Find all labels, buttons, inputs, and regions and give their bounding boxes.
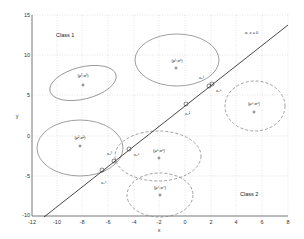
svg-text:-4: -4: [132, 219, 137, 225]
svg-text:-10: -10: [22, 212, 30, 218]
svg-text:(μ⁸,σ⁸): (μ⁸,σ⁸): [248, 101, 261, 106]
svg-text:2: 2: [209, 219, 212, 225]
y-axis-label: y: [16, 113, 19, 119]
chart: -12 -10 -8 -6 -4 -2 0 2 4 6 8 15 10 5 0 …: [0, 0, 304, 239]
svg-text:8: 8: [286, 219, 289, 225]
svg-text:-2: -2: [157, 219, 162, 225]
x-axis-label: x: [158, 227, 161, 233]
svg-text:x₀¹: x₀¹: [199, 75, 205, 80]
x-tick-labels: -12 -10 -8 -6 -4 -2 0 2 4 6 8: [28, 219, 290, 225]
class2-label: Class 2: [240, 191, 258, 197]
svg-text:5: 5: [27, 92, 30, 98]
ellipse-mu8: [225, 81, 285, 131]
line-points: [100, 82, 214, 172]
svg-text:6: 6: [260, 219, 263, 225]
svg-text:x₀⁴: x₀⁴: [101, 180, 107, 185]
class1-ellipses: [37, 34, 219, 176]
line-equation-label: α, x = 0: [245, 30, 259, 35]
ellipse-mu6: [115, 131, 201, 181]
class1-label: Class 1: [56, 32, 74, 38]
svg-text:(μ³,σ³): (μ³,σ³): [77, 73, 89, 78]
svg-text:x₀⁵: x₀⁵: [216, 88, 222, 93]
y-tick-labels: 15 10 5 0 -5 -10: [22, 12, 30, 218]
svg-text:4: 4: [234, 219, 237, 225]
svg-text:x₀³: x₀³: [107, 151, 113, 156]
ellipse-mu2: [37, 120, 123, 176]
svg-text:(μ⁶,σ⁶): (μ⁶,σ⁶): [153, 148, 166, 153]
svg-text:-10: -10: [53, 219, 61, 225]
svg-text:0: 0: [183, 219, 186, 225]
svg-text:10: 10: [24, 52, 30, 58]
svg-text:(μ²,σ²): (μ²,σ²): [74, 135, 86, 140]
svg-text:15: 15: [24, 12, 30, 18]
decision-line: [44, 25, 288, 217]
svg-text:x₀²: x₀²: [185, 111, 191, 116]
svg-text:-12: -12: [28, 219, 36, 225]
svg-text:-5: -5: [25, 173, 30, 179]
svg-text:x₀⁶: x₀⁶: [134, 152, 140, 157]
svg-text:(μ⁴,σ⁴): (μ⁴,σ⁴): [154, 185, 167, 190]
svg-text:(μ¹,σ¹): (μ¹,σ¹): [171, 58, 183, 63]
svg-text:0: 0: [27, 133, 30, 139]
svg-text:-8: -8: [80, 219, 85, 225]
svg-text:-6: -6: [106, 219, 111, 225]
